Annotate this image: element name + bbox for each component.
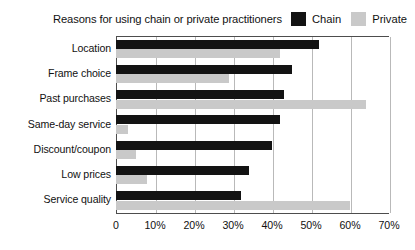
category-label: Location xyxy=(0,42,111,54)
bar-chain xyxy=(116,65,292,74)
legend-item-private: Private xyxy=(351,12,407,26)
bar-chain xyxy=(116,90,284,99)
gridline xyxy=(390,37,391,213)
legend-swatch-chain xyxy=(291,12,306,26)
bar-private xyxy=(116,100,366,109)
chart-title: Reasons for using chain or private pract… xyxy=(53,13,282,25)
legend-item-chain: Chain xyxy=(291,12,341,26)
category-label: Service quality xyxy=(0,193,111,205)
x-tick-label: 10% xyxy=(144,219,165,231)
bar-private xyxy=(116,201,350,210)
legend-swatch-private xyxy=(351,12,366,26)
bar-chart-figure: Reasons for using chain or private pract… xyxy=(0,0,415,250)
category-label: Frame choice xyxy=(0,67,111,79)
category-label: Low prices xyxy=(0,168,111,180)
bar-private xyxy=(116,125,128,134)
category-label: Same-day service xyxy=(0,118,111,130)
x-tick-label: 30% xyxy=(222,219,243,231)
bar-chain xyxy=(116,115,280,124)
bar-chain xyxy=(116,141,272,150)
bars-layer xyxy=(116,36,389,213)
x-tick-label: 70% xyxy=(378,219,399,231)
bar-private xyxy=(116,150,136,159)
bar-private xyxy=(116,49,280,58)
category-label: Discount/coupon xyxy=(0,143,111,155)
x-axis-tick-labels: 010%20%30%40%50%60%70% xyxy=(0,219,415,237)
bar-private xyxy=(116,175,147,184)
x-axis-line xyxy=(116,213,389,214)
x-tick-label: 50% xyxy=(300,219,321,231)
x-tick-label: 40% xyxy=(261,219,282,231)
chart-header: Reasons for using chain or private pract… xyxy=(0,9,415,29)
x-tick-label: 20% xyxy=(183,219,204,231)
bar-chain xyxy=(116,166,249,175)
bar-chain xyxy=(116,40,319,49)
category-label: Past purchases xyxy=(0,92,111,104)
legend-label-chain: Chain xyxy=(312,13,341,25)
y-axis-category-labels: LocationFrame choicePast purchasesSame-d… xyxy=(0,36,111,213)
bar-private xyxy=(116,74,229,83)
chart-legend: Chain Private xyxy=(291,12,407,26)
x-tick-label: 60% xyxy=(339,219,360,231)
bar-chain xyxy=(116,191,241,200)
legend-label-private: Private xyxy=(372,13,407,25)
x-tick-label: 0 xyxy=(113,219,119,231)
